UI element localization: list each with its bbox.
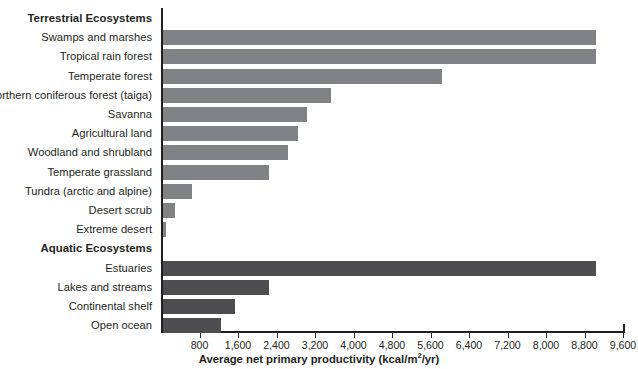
category-label: Desert scrub bbox=[89, 204, 152, 217]
category-label: Northern coniferous forest (taiga) bbox=[0, 89, 152, 102]
x-axis-tick-label: 5,600 bbox=[417, 339, 444, 351]
category-label: Woodland and shrubland bbox=[28, 146, 152, 159]
category-label: Tropical rain forest bbox=[60, 50, 152, 63]
x-axis-tick-label: 2,400 bbox=[263, 339, 290, 351]
x-axis-title-prefix: Average net primary productivity (kcal/m bbox=[199, 353, 418, 365]
bar bbox=[163, 88, 331, 103]
bar bbox=[163, 107, 307, 122]
category-label: Tundra (arctic and alpine) bbox=[25, 185, 152, 198]
bar bbox=[163, 318, 221, 333]
x-axis-tick bbox=[315, 333, 316, 338]
category-label: Swamps and marshes bbox=[41, 31, 152, 44]
x-axis-tick bbox=[277, 333, 278, 338]
bar bbox=[163, 126, 298, 141]
bar bbox=[163, 30, 596, 45]
bar bbox=[163, 299, 235, 314]
group-heading-label: Terrestrial Ecosystems bbox=[27, 12, 152, 25]
plot-area: 8001,6002,4003,2004,0004,8005,6006,4007,… bbox=[161, 0, 638, 340]
category-label: Temperate forest bbox=[68, 70, 152, 83]
x-axis-tick-label: 1,600 bbox=[225, 339, 252, 351]
category-label: Temperate grassland bbox=[48, 166, 152, 179]
bar bbox=[163, 184, 192, 199]
x-axis-tick bbox=[392, 333, 393, 338]
x-axis-tick-label: 8,800 bbox=[571, 339, 598, 351]
category-label: Savanna bbox=[108, 108, 152, 121]
category-label: Extreme desert bbox=[76, 223, 152, 236]
x-axis-tick-label: 6,400 bbox=[456, 339, 483, 351]
category-label: Lakes and streams bbox=[57, 281, 152, 294]
x-axis-tick-label: 9,600 bbox=[610, 339, 637, 351]
x-axis-tick-label: 4,000 bbox=[340, 339, 367, 351]
x-axis-tick bbox=[238, 333, 239, 338]
bar bbox=[163, 222, 166, 237]
x-axis-tick bbox=[623, 333, 624, 338]
x-axis-tick-label: 7,200 bbox=[494, 339, 521, 351]
x-axis-line bbox=[161, 331, 625, 333]
x-axis-tick bbox=[431, 333, 432, 338]
x-axis-tick-label: 4,800 bbox=[379, 339, 406, 351]
bar bbox=[163, 261, 596, 276]
x-axis-tick-label: 8,000 bbox=[533, 339, 560, 351]
x-axis-tick bbox=[508, 333, 509, 338]
x-axis-tick bbox=[354, 333, 355, 338]
x-axis-title-suffix: /yr) bbox=[422, 353, 440, 365]
x-axis-tick bbox=[546, 333, 547, 338]
group-heading-label: Aquatic Ecosystems bbox=[41, 242, 152, 255]
bar bbox=[163, 203, 175, 218]
bar bbox=[163, 280, 269, 295]
x-axis-tick bbox=[469, 333, 470, 338]
bar bbox=[163, 49, 596, 64]
bar bbox=[163, 145, 288, 160]
category-label: Estuaries bbox=[105, 262, 152, 275]
x-axis-tick bbox=[200, 333, 201, 338]
category-label: Open ocean bbox=[91, 319, 152, 332]
x-axis-tick bbox=[585, 333, 586, 338]
x-axis-title: Average net primary productivity (kcal/m… bbox=[0, 353, 638, 365]
bar bbox=[163, 69, 442, 84]
x-axis-right-cap bbox=[623, 324, 625, 333]
npp-bar-chart: Terrestrial EcosystemsSwamps and marshes… bbox=[0, 0, 638, 369]
bar bbox=[163, 165, 269, 180]
category-label: Continental shelf bbox=[69, 300, 152, 313]
x-axis-tick-label: 3,200 bbox=[302, 339, 329, 351]
category-label: Agricultural land bbox=[72, 127, 152, 140]
x-axis-tick-label: 800 bbox=[191, 339, 209, 351]
